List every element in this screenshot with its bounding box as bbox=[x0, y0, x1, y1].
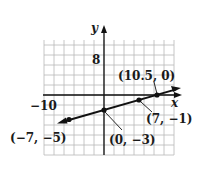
label-point-10.5-0: (10.5, 0) bbox=[118, 69, 175, 83]
y-axis-arrow-icon bbox=[101, 25, 107, 33]
leader-10.5-0 bbox=[154, 82, 157, 94]
coordinate-plot: y x 8 −10 (10.5, 0) (7, −1) (0, −3) (−7,… bbox=[0, 0, 208, 173]
point-0-neg3 bbox=[101, 107, 106, 112]
leader-7-neg1 bbox=[141, 102, 152, 112]
tick-x-neg10: −10 bbox=[30, 99, 57, 113]
label-point-neg7-neg5: (−7, −5) bbox=[10, 131, 67, 145]
point-neg7-neg5 bbox=[66, 117, 71, 122]
label-point-7-neg1: (7, −1) bbox=[146, 112, 192, 126]
y-axis-label: y bbox=[90, 21, 99, 35]
x-axis-label: x bbox=[170, 96, 179, 110]
point-7-neg1 bbox=[136, 97, 141, 102]
line-arrow-left-icon bbox=[57, 118, 68, 124]
label-point-0-neg3: (0, −3) bbox=[109, 133, 155, 147]
tick-y-8: 8 bbox=[92, 53, 100, 67]
